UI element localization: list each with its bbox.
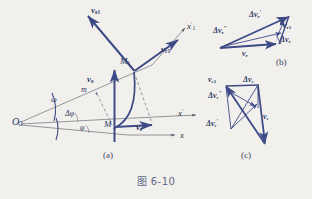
angle-arc-lower: [56, 118, 58, 140]
panel-c-delta-ve: [226, 85, 259, 86]
angle-arc-upper: [52, 93, 56, 121]
figure-drawing: [0, 0, 312, 199]
axis-x-prime-line: [21, 115, 196, 124]
origin-marker: [19, 122, 23, 126]
panel-a-drawing: [19, 16, 196, 142]
figure-caption: 图 6-10: [0, 173, 312, 188]
axis-x1-prime-line: [21, 28, 185, 122]
panel-a-tag: (a): [103, 150, 113, 160]
point-m-marker: [96, 93, 98, 95]
phi-arc: [86, 125, 89, 133]
axis-x-line: [21, 125, 175, 135]
vector-vr-arrow: [115, 125, 152, 127]
vector-ve1-arrow: [88, 16, 135, 71]
panel-b-drawing: [220, 16, 289, 48]
panel-b-tag: (b): [276, 57, 287, 67]
point-M-marker: [114, 128, 116, 130]
dashed-line-m1: [134, 72, 152, 123]
figure-6-10: O ω Δφ φ m M M1 x′ x x′1 ve ve1 vr vr1 (…: [0, 0, 312, 199]
relative-trajectory-curve: [115, 72, 135, 128]
panel-c-tag: (c): [241, 150, 251, 160]
dashed-line-m: [97, 94, 112, 125]
panel-c-drawing: [226, 85, 265, 144]
panel-b-vr1: [220, 17, 288, 48]
vector-vr1-arrow: [135, 40, 179, 71]
